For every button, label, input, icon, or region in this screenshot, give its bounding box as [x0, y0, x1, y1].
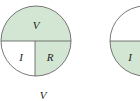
- circle-i-highlighted: I: [100, 6, 140, 81]
- caption-v: V: [40, 89, 48, 101]
- bottom-right-segment: [35, 41, 80, 81]
- label-r: R: [46, 51, 54, 63]
- bottom-segment: [100, 41, 140, 81]
- circle-v-over-i-r: V I R: [0, 0, 80, 81]
- ohms-law-diagram: V I R I V: [0, 0, 140, 101]
